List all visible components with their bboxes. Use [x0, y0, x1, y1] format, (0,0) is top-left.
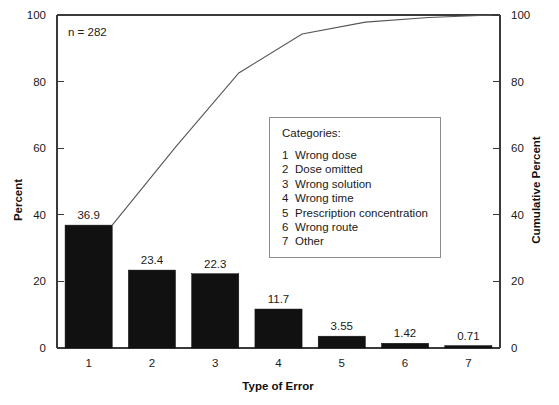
x-tick-label-2: 2 — [149, 357, 155, 369]
bar-value-label-1: 36.9 — [77, 209, 99, 221]
y2-tick-label-80: 80 — [511, 76, 524, 88]
bar-value-label-6: 1.42 — [394, 327, 416, 339]
legend-item-key: 7 — [282, 234, 295, 248]
x-axis-title: Type of Error — [242, 380, 314, 392]
legend-item-label: Other — [295, 235, 324, 247]
y-tick-label-0: 0 — [40, 342, 46, 354]
bar-7 — [445, 346, 492, 348]
legend-item-key: 6 — [282, 220, 295, 234]
legend-item-key: 1 — [282, 148, 295, 162]
legend-item-5: 5Prescription concentration — [282, 206, 428, 220]
legend-item-key: 4 — [282, 191, 295, 205]
bar-5 — [318, 336, 365, 348]
y2-tick-label-20: 20 — [511, 275, 524, 287]
bar-3 — [192, 274, 239, 348]
legend-item-label: Wrong route — [295, 221, 358, 233]
pareto-chart: 020406080100 020406080100 36.923.422.311… — [0, 0, 559, 405]
bar-value-label-5: 3.55 — [331, 320, 353, 332]
bar-6 — [382, 343, 429, 348]
legend-title: Categories: — [282, 127, 428, 139]
legend-item-label: Wrong time — [295, 192, 354, 204]
y-axis-title: Percent — [12, 179, 24, 221]
legend-item-4: 4Wrong time — [282, 191, 428, 205]
bar-value-label-7: 0.71 — [457, 330, 479, 342]
x-tick-label-6: 6 — [402, 357, 408, 369]
y2-tick-label-60: 60 — [511, 142, 524, 154]
right-axis-tick-labels: 020406080100 — [511, 9, 530, 354]
y2-tick-label-40: 40 — [511, 209, 524, 221]
legend-item-label: Prescription concentration — [295, 207, 428, 219]
y2-axis-title: Cumulative Percent — [530, 136, 542, 244]
legend-box: Categories: 1Wrong dose2Dose omitted3Wro… — [269, 117, 441, 258]
y2-tick-label-100: 100 — [511, 9, 530, 21]
legend-item-key: 5 — [282, 206, 295, 220]
left-axis-ticks — [57, 82, 64, 282]
bar-value-label-4: 11.7 — [268, 293, 290, 305]
right-axis-ticks — [493, 82, 500, 282]
x-tick-label-7: 7 — [465, 357, 471, 369]
legend-item-7: 7Other — [282, 234, 428, 248]
legend-items: 1Wrong dose2Dose omitted3Wrong solution4… — [282, 148, 428, 249]
bar-value-label-3: 22.3 — [204, 258, 226, 270]
x-tick-label-5: 5 — [339, 357, 345, 369]
y-tick-label-60: 60 — [33, 142, 46, 154]
legend-item-3: 3Wrong solution — [282, 177, 428, 191]
bar-2 — [128, 270, 175, 348]
bar-4 — [255, 309, 302, 348]
legend-item-label: Dose omitted — [295, 163, 363, 175]
legend-item-6: 6Wrong route — [282, 220, 428, 234]
y-tick-label-80: 80 — [33, 76, 46, 88]
x-axis-tick-labels: 1234567 — [85, 357, 471, 369]
left-axis-tick-labels: 020406080100 — [27, 9, 46, 354]
legend-item-key: 2 — [282, 162, 295, 176]
bar-1 — [65, 225, 112, 348]
legend-item-2: 2Dose omitted — [282, 162, 428, 176]
x-tick-label-4: 4 — [275, 357, 282, 369]
legend-item-1: 1Wrong dose — [282, 148, 428, 162]
legend-item-key: 3 — [282, 177, 295, 191]
y-tick-label-20: 20 — [33, 275, 46, 287]
x-tick-label-1: 1 — [85, 357, 91, 369]
y-tick-label-40: 40 — [33, 209, 46, 221]
bar-value-label-2: 23.4 — [141, 254, 164, 266]
legend-item-label: Wrong dose — [295, 149, 357, 161]
legend-item-label: Wrong solution — [295, 178, 372, 190]
y-tick-label-100: 100 — [27, 9, 46, 21]
sample-size-annotation: n = 282 — [68, 26, 107, 38]
y2-tick-label-0: 0 — [511, 342, 517, 354]
x-tick-label-3: 3 — [212, 357, 218, 369]
